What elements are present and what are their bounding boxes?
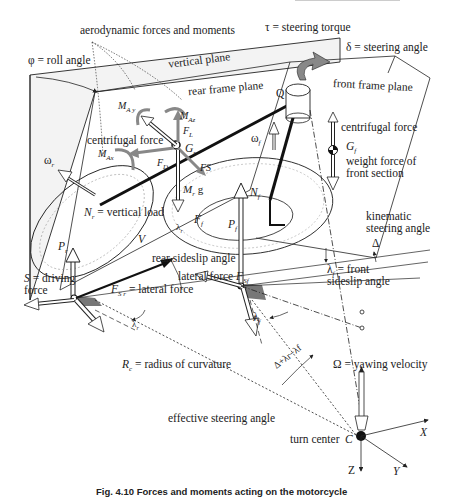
- label-fl: FL: [183, 125, 193, 141]
- label-kinematic-2: steering angle: [366, 222, 430, 234]
- label-radius: Rc = radius of curvature: [122, 358, 231, 375]
- label-yawing-velocity: Ω = yawing velocity: [333, 358, 428, 370]
- label-pf: Pf: [228, 218, 237, 235]
- label-driving-force-1: S = driving: [24, 272, 75, 284]
- label-roll-angle: φ = roll angle: [28, 54, 91, 66]
- label-steering-torque: τ = steering torque: [265, 21, 351, 33]
- label-v: V: [138, 233, 145, 245]
- label-fs: FS: [200, 162, 211, 174]
- label-weight-front-1: weight force of: [346, 155, 416, 167]
- front-spin-arrow: [269, 122, 279, 150]
- label-maz: MAz: [180, 110, 195, 126]
- axis-point-1: [360, 310, 364, 314]
- label-omega-f: ωf: [251, 132, 261, 149]
- y-axis: [361, 436, 407, 467]
- label-delta: Δ: [372, 237, 379, 249]
- label-steering-angle: δ = steering angle: [346, 41, 428, 53]
- figure-caption: Fig. 4.10 Forces and moments acting on t…: [96, 486, 347, 497]
- moment-max-arrow: [115, 150, 133, 170]
- label-y: Y: [393, 465, 399, 477]
- label-gr: Gr: [185, 142, 196, 159]
- front-cg-group: [327, 112, 339, 190]
- yaw-velocity-arrow: [355, 366, 368, 430]
- front-lambda-arc: [270, 312, 288, 318]
- label-ff: Ff: [194, 213, 203, 230]
- label-nr: Nr = vertical load: [84, 206, 164, 223]
- delta-marker: [374, 252, 376, 262]
- label-pr: Pr: [58, 240, 68, 257]
- label-aerodynamic: aerodynamic forces and moments: [80, 24, 235, 36]
- label-rear-sideslip: rear sideslip angle: [152, 252, 236, 264]
- driving-force-arrow: [24, 298, 74, 310]
- label-omega-r: ωr: [44, 154, 54, 171]
- label-centrifugal-front: centrifugal force: [341, 121, 417, 133]
- label-Q: Q: [276, 87, 284, 99]
- label-centrifugal-rear: centrifugal force: [87, 134, 163, 146]
- label-c: C: [345, 433, 353, 445]
- label-lambda-r: λr: [176, 221, 183, 237]
- label-mrg: Mr g: [183, 183, 203, 200]
- label-may: MA y: [118, 100, 135, 116]
- steering-head: [286, 84, 310, 123]
- label-fd: FD: [157, 157, 168, 173]
- label-weight-front-2: front section: [346, 167, 404, 179]
- label-fsr: FS r = lateral force: [111, 283, 193, 300]
- label-z: Z: [348, 464, 355, 476]
- label-driving-force-2: force: [24, 284, 48, 296]
- label-lambda-f-2: λf: [253, 311, 261, 328]
- label-max: MAx: [98, 148, 114, 164]
- label-effective-steering: effective steering angle: [168, 412, 275, 424]
- label-nf: Nf: [250, 186, 260, 203]
- front-wheel: [159, 151, 337, 261]
- label-x: X: [420, 426, 427, 438]
- rear-weight-arrow: [172, 150, 184, 212]
- axis-point-2: [360, 326, 364, 330]
- label-kinematic-1: kinematic: [366, 210, 411, 222]
- x-axis: [361, 420, 428, 436]
- label-lambda-r-2: λr: [132, 318, 139, 334]
- label-turn-center: turn center: [290, 433, 340, 445]
- label-front-sideslip-2: sideslip angle: [327, 275, 390, 287]
